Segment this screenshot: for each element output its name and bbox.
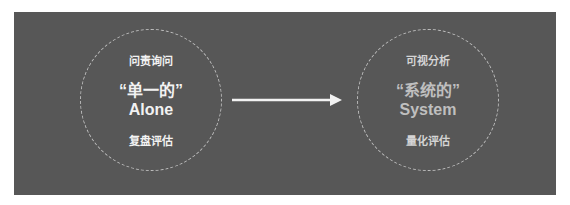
node-alone: 问责询问 “单一的” Alone 复盘评估: [80, 29, 222, 171]
node-system-bottom-label: 量化评估: [406, 132, 450, 148]
node-alone-bottom-label: 复盘评估: [129, 132, 173, 148]
diagram-panel: 问责询问 “单一的” Alone 复盘评估 可视分析 “系统的” System …: [14, 12, 556, 195]
node-system-top-label: 可视分析: [406, 52, 450, 68]
node-alone-title-en: Alone: [129, 100, 173, 120]
arrow-right-icon: [232, 94, 342, 106]
node-system-title-en: System: [400, 100, 457, 120]
node-alone-top-label: 问责询问: [129, 52, 173, 68]
node-alone-title-cn: “单一的”: [119, 82, 183, 100]
node-system: 可视分析 “系统的” System 量化评估: [357, 29, 499, 171]
node-system-title-cn: “系统的”: [396, 82, 460, 100]
